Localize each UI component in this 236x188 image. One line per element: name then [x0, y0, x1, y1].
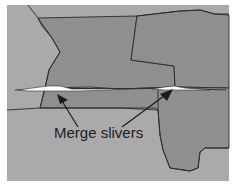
- merge-slivers-label: Merge slivers: [54, 124, 143, 141]
- merge-slivers-diagram: [0, 0, 236, 188]
